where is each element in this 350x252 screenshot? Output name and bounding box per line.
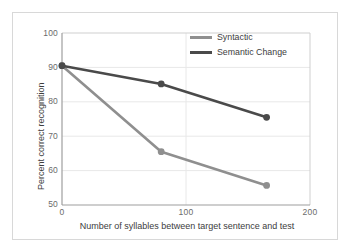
x-tick-label-100: 100 [171, 207, 201, 217]
y-tick-label-90: 90 [36, 62, 58, 72]
chart-legend: Syntactic Semantic Change [190, 31, 287, 58]
legend-swatch-syntactic [190, 36, 212, 39]
series-syntactic [59, 62, 270, 189]
x-tick-label-200: 200 [295, 207, 325, 217]
legend-entry-syntactic: Syntactic [190, 31, 287, 43]
legend-label-syntactic: Syntactic [217, 32, 253, 42]
y-axis-title: Percent correct recognition [36, 82, 46, 190]
line-chart: 100 90 80 70 60 50 0 100 200 Percent cor… [0, 0, 350, 252]
y-tick-label-100: 100 [36, 28, 58, 38]
x-tick-label-0: 0 [47, 207, 77, 217]
legend-swatch-semantic-change [190, 51, 212, 54]
legend-label-semantic-change: Semantic Change [217, 47, 287, 57]
x-axis-title: Number of syllables between target sente… [62, 221, 312, 231]
legend-entry-semantic-change: Semantic Change [190, 46, 287, 58]
